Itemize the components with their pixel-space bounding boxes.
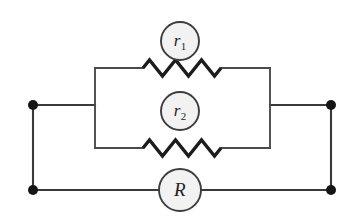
circuit-diagram-canvas: r1 r2 R xyxy=(0,0,355,218)
node-terminal-bottom-right xyxy=(326,185,336,195)
node-terminal-top-left xyxy=(28,100,38,110)
resistor-symbol-r2 xyxy=(143,140,221,156)
resistor-symbol-r1 xyxy=(143,60,221,76)
label-resistor-r2: r2 xyxy=(160,102,200,122)
node-terminal-bottom-left xyxy=(28,185,38,195)
label-resistor-R: R xyxy=(160,180,200,202)
node-terminal-top-right xyxy=(326,100,336,110)
label-resistor-r1: r1 xyxy=(160,32,200,52)
